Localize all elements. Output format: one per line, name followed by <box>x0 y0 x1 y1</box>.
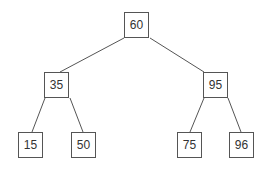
tree-node: 35 <box>44 72 69 98</box>
edge-95-96 <box>228 98 241 132</box>
edge-60-35 <box>60 38 124 72</box>
edge-60-95 <box>150 38 204 72</box>
tree-leaf: 75 <box>177 132 202 158</box>
tree-node: 95 <box>203 72 228 98</box>
tree-node-root: 60 <box>124 12 149 38</box>
edge-35-15 <box>32 98 45 132</box>
edge-95-75 <box>190 98 204 132</box>
tree-leaf: 15 <box>18 132 43 158</box>
binary-tree-diagram: 60 35 95 15 50 75 96 <box>0 0 269 171</box>
edge-35-50 <box>70 98 83 132</box>
tree-leaf: 96 <box>229 132 254 158</box>
tree-leaf: 50 <box>71 132 96 158</box>
